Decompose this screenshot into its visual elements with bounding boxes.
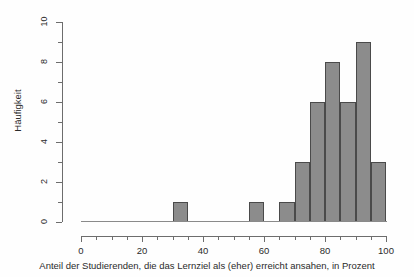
x-axis-minor-tick [157,236,158,240]
histogram-bar [279,202,294,222]
x-axis-minor-tick [371,236,372,240]
y-axis-tick-label-text: 2 [40,174,49,190]
y-axis-tick-label-text: 4 [40,134,49,150]
x-axis-title: Anteil der Studierenden, die das Lernzie… [0,260,414,271]
y-axis-tick-label-text: 8 [40,54,49,70]
zero-baseline [81,221,387,222]
histogram-bar [295,162,310,222]
x-axis-minor-tick [127,236,128,240]
x-axis-tick [264,236,265,242]
histogram-bar [356,42,371,222]
x-axis-tick [386,236,387,242]
histogram-bar [173,202,188,222]
y-axis-tick-label-text: 10 [40,14,49,30]
x-axis-tick-label: 20 [127,245,157,256]
x-axis-tick-label: 80 [310,245,340,256]
y-axis-tick-label: 10 [36,17,52,27]
histogram-bar [371,162,386,222]
y-axis-tick-label: 4 [36,137,52,147]
x-axis-tick [81,236,82,242]
x-axis-tick-label: 100 [371,245,401,256]
y-axis-tick-label: 8 [36,57,52,67]
x-axis-minor-tick [310,236,311,240]
x-axis-minor-tick [234,236,235,240]
y-axis-tick-label-text: 0 [40,214,49,230]
x-axis-minor-tick [279,236,280,240]
x-axis-minor-tick [340,236,341,240]
y-axis-title: Häufigkeit [12,76,23,146]
y-axis-tick-label: 0 [36,217,52,227]
x-axis-minor-tick [295,236,296,240]
y-axis-tick-label: 2 [36,177,52,187]
x-axis-minor-tick [173,236,174,240]
plot-area [62,22,386,222]
y-axis-tick-label-text: 6 [40,94,49,110]
histogram-figure: Häufigkeit 0246810 020406080100 Anteil d… [0,0,414,277]
histogram-bar [310,102,325,222]
histogram-bar [249,202,264,222]
x-axis-tick [325,236,326,242]
x-axis-minor-tick [356,236,357,240]
x-axis-minor-tick [249,236,250,240]
x-axis-minor-tick [112,236,113,240]
x-axis-tick-label: 0 [66,245,96,256]
histogram-bar [325,62,340,222]
x-axis-tick [203,236,204,242]
y-axis-tick [56,222,62,223]
x-axis-minor-tick [96,236,97,240]
x-axis-minor-tick [188,236,189,240]
y-axis-tick-label: 6 [36,97,52,107]
histogram-bar [340,102,355,222]
x-axis-tick-label: 40 [188,245,218,256]
x-axis-minor-tick [218,236,219,240]
x-axis-tick-label: 60 [249,245,279,256]
x-axis-tick [142,236,143,242]
